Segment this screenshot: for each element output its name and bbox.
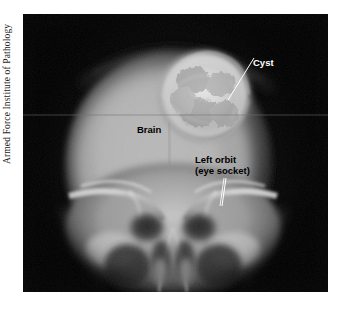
figure-root: Armed Force Institute of Pathology: [0, 0, 345, 309]
xray-plate: Cyst Brain Left orbit (eye socket): [23, 14, 328, 292]
skull-radiograph-image: [23, 14, 328, 292]
source-credit: Armed Force Institute of Pathology: [0, 19, 14, 164]
